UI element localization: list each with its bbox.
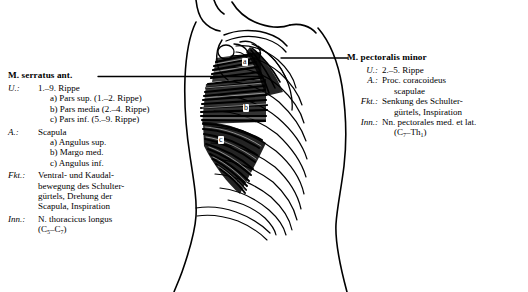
pectoralis-function-key: Fkt.: bbox=[347, 96, 382, 106]
serratus-origin-sub-a: a) Pars sup. (1.–2. Rippe) bbox=[8, 93, 208, 103]
serratus-insertion-sub-c: c) Angulus inf. bbox=[8, 158, 208, 168]
serratus-insertion-value: Scapula bbox=[38, 127, 67, 137]
pectoralis-innervation-key: Inn.: bbox=[347, 117, 382, 127]
pectoralis-title: M. pectoralis minor bbox=[347, 52, 527, 63]
serratus-innervation-segments: (C5–C7) bbox=[8, 224, 208, 237]
pectoralis-origin-row: U.: 2.–5. Rippe bbox=[347, 65, 527, 75]
figure-label-c: c bbox=[218, 136, 224, 144]
serratus-innervation-value: N. thoracicus longus bbox=[38, 214, 112, 224]
pectoralis-insertion-cont: scapulae bbox=[347, 86, 527, 96]
pectoralis-innervation-row: Inn.: Nn. pectorales med. et lat. bbox=[347, 117, 527, 127]
serratus-anterior-panel: M. serratus ant. U.: 1.–9. Rippe a) Pars… bbox=[8, 70, 208, 237]
serratus-function-line-4: Scapula, Inspiration bbox=[8, 201, 208, 211]
pectoralis-origin-value: 2.–5. Rippe bbox=[382, 65, 424, 75]
figure-label-b: b bbox=[243, 104, 249, 112]
figure-label-a: a bbox=[242, 58, 248, 66]
serratus-origin-sub-b: b) Pars media (2.–4. Rippe) bbox=[8, 104, 208, 114]
pectoralis-function-line-2: gürtels, Inspiration bbox=[347, 107, 527, 117]
serratus-function-line-1: Ventral- und Kaudal- bbox=[38, 170, 114, 180]
pectoralis-innervation-value: Nn. pectorales med. et lat. bbox=[382, 117, 476, 127]
pectoralis-innervation-segments: (C7–Th1) bbox=[347, 127, 527, 140]
serratus-insertion-key: A.: bbox=[8, 127, 38, 137]
serratus-origin-key: U.: bbox=[8, 83, 38, 93]
pectoralis-origin-key: U.: bbox=[347, 65, 382, 75]
pectoralis-insertion-row: A.: Proc. coracoideus bbox=[347, 75, 527, 85]
pectoralis-minor-panel: M. pectoralis minor U.: 2.–5. Rippe A.: … bbox=[347, 52, 527, 141]
pectoralis-function-row: Fkt.: Senkung des Schulter- bbox=[347, 96, 527, 106]
serratus-origin-row: U.: 1.–9. Rippe bbox=[8, 83, 208, 93]
serratus-function-line-3: gürtels, Drehung der bbox=[8, 191, 208, 201]
anatomy-plate: a b c M. serratus ant. U.: 1.–9. Rippe a… bbox=[0, 0, 528, 292]
serratus-insertion-sub-b: b) Margo med. bbox=[8, 147, 208, 157]
serratus-function-row: Fkt.: Ventral- und Kaudal- bbox=[8, 170, 208, 180]
serratus-function-key: Fkt.: bbox=[8, 170, 38, 180]
serratus-innervation-row: Inn.: N. thoracicus longus bbox=[8, 214, 208, 224]
pectoralis-insertion-key: A.: bbox=[347, 75, 382, 85]
pectoralis-function-line-1: Senkung des Schulter- bbox=[382, 96, 463, 106]
serratus-origin-sub-c: c) Pars inf. (5.–9. Rippe) bbox=[8, 114, 208, 124]
serratus-function-line-2: bewegung des Schulter- bbox=[8, 181, 208, 191]
serratus-innervation-key: Inn.: bbox=[8, 214, 38, 224]
pectoralis-insertion-value: Proc. coracoideus bbox=[382, 75, 446, 85]
serratus-insertion-sub-a: a) Angulus sup. bbox=[8, 137, 208, 147]
serratus-origin-value: 1.–9. Rippe bbox=[38, 83, 80, 93]
serratus-insertion-row: A.: Scapula bbox=[8, 127, 208, 137]
serratus-title: M. serratus ant. bbox=[8, 70, 208, 81]
